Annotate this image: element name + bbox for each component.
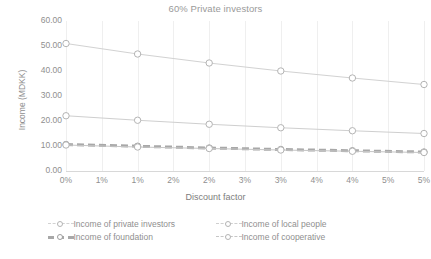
data-point-marker — [278, 68, 284, 74]
data-point-marker — [421, 130, 427, 136]
data-point-marker — [278, 125, 284, 131]
legend-item[interactable]: Income of cooperative — [216, 232, 384, 242]
legend-key-icon — [48, 232, 74, 241]
x-tick-label: 5% — [373, 175, 403, 185]
x-tick-label: 2% — [158, 175, 188, 185]
legend-item[interactable]: Income of foundation — [48, 232, 216, 242]
y-tick-label: 30.00 — [16, 90, 62, 100]
legend-key-icon — [216, 219, 242, 228]
legend-key-icon — [48, 219, 74, 228]
chart-title: 60% Private investors — [0, 3, 431, 14]
data-point-marker — [206, 145, 212, 151]
chart-figure: 60% Private investors Income (MDKK) 0.00… — [0, 0, 431, 259]
x-tick-label: 1% — [123, 175, 153, 185]
data-point-marker — [206, 121, 212, 127]
y-tick-label: 60.00 — [16, 15, 62, 25]
series-line — [66, 116, 424, 134]
x-axis-tick-labels: 0%1%1%2%2%3%3%4%4%5%5% — [66, 175, 424, 189]
series-lines — [66, 21, 424, 171]
x-tick-label: 4% — [337, 175, 367, 185]
data-point-marker — [421, 149, 427, 155]
x-tick-label: 3% — [230, 175, 260, 185]
legend-label: Income of foundation — [74, 232, 153, 242]
data-point-marker — [206, 60, 212, 66]
data-point-marker — [63, 113, 69, 119]
data-point-marker — [349, 148, 355, 154]
x-tick-label: 5% — [409, 175, 431, 185]
legend-label: Income of cooperative — [242, 232, 326, 242]
y-tick-label: 0.00 — [16, 165, 62, 175]
data-point-marker — [63, 40, 69, 46]
data-point-marker — [278, 147, 284, 153]
legend-row: Income of foundationIncome of cooperativ… — [0, 230, 431, 243]
data-point-marker — [349, 128, 355, 134]
x-tick-label: 0% — [51, 175, 81, 185]
series-line — [66, 145, 424, 153]
data-point-marker — [421, 81, 427, 87]
data-point-marker — [134, 51, 140, 57]
figure-caption — [0, 250, 431, 259]
data-point-marker — [349, 75, 355, 81]
y-tick-label: 10.00 — [16, 140, 62, 150]
legend-key-icon — [216, 232, 242, 241]
legend-item[interactable]: Income of private investors — [48, 219, 216, 229]
legend-label: Income of private investors — [74, 219, 176, 229]
legend-item[interactable]: Income of local people — [216, 219, 384, 229]
legend-row: Income of private investorsIncome of loc… — [0, 217, 431, 230]
series-line — [66, 145, 424, 153]
plot-area — [66, 21, 424, 171]
data-point-marker — [134, 144, 140, 150]
data-point-marker — [134, 117, 140, 123]
y-tick-label: 20.00 — [16, 115, 62, 125]
x-axis-title: Discount factor — [0, 192, 431, 202]
series-line — [66, 44, 424, 85]
y-tick-label: 50.00 — [16, 40, 62, 50]
x-tick-label: 2% — [194, 175, 224, 185]
x-tick-label: 1% — [87, 175, 117, 185]
chart-legend: Income of private investorsIncome of loc… — [0, 217, 431, 243]
x-tick-label: 4% — [302, 175, 332, 185]
x-tick-label: 3% — [266, 175, 296, 185]
x-axis-line — [66, 171, 424, 172]
data-point-marker — [63, 142, 69, 148]
y-tick-label: 40.00 — [16, 65, 62, 75]
legend-label: Income of local people — [242, 219, 327, 229]
